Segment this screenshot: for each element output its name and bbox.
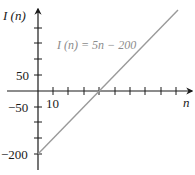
tick-label-neg50: −50 (8, 100, 28, 115)
tick-label-neg200: −200 (1, 147, 28, 162)
linear-function-chart: I (n) n I (n) = 5n − 200 50 −50 −200 10 (0, 0, 195, 175)
series-line (38, 10, 178, 154)
x-axis-label: n (183, 95, 190, 110)
tick-label-10: 10 (46, 96, 59, 111)
tick-label-50: 50 (16, 68, 29, 83)
equation-annotation: I (n) = 5n − 200 (56, 38, 136, 52)
y-axis-label: I (n) (2, 8, 26, 23)
